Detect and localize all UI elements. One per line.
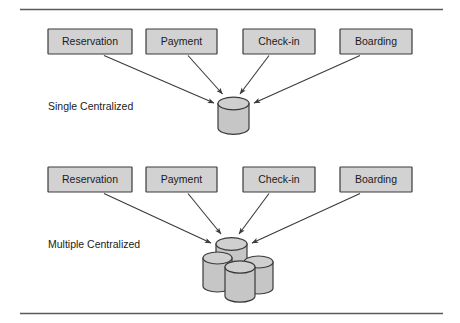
process-box-payment-top[interactable]: Payment xyxy=(146,29,217,54)
flow-arrow-boarding-to-db xyxy=(252,194,360,244)
flow-arrow-check-in-to-db xyxy=(239,194,269,235)
process-box-check-in-top[interactable]: Check-in xyxy=(243,29,315,54)
flow-arrow-check-in-to-db xyxy=(240,56,269,95)
architecture-diagram: Reservation Payment Check-in Boarding Si… xyxy=(0,0,460,323)
cylinder-front-center xyxy=(225,261,255,302)
database-cylinder-single[interactable] xyxy=(218,97,249,134)
cylinder-top xyxy=(218,97,249,110)
process-box-label: Boarding xyxy=(355,35,397,47)
flow-arrow-boarding-to-db xyxy=(254,56,360,104)
process-box-label: Check-in xyxy=(258,35,300,47)
process-box-payment-bottom[interactable]: Payment xyxy=(146,167,217,192)
database-cylinder-cluster[interactable] xyxy=(203,238,273,302)
row-label-multiple-centralized: Multiple Centralized xyxy=(48,238,140,250)
flow-arrow-payment-to-db xyxy=(188,194,221,235)
process-box-boarding-top[interactable]: Boarding xyxy=(340,29,412,54)
row-single-centralized: Reservation Payment Check-in Boarding Si… xyxy=(48,29,412,134)
row-label-single-centralized: Single Centralized xyxy=(48,100,133,112)
cylinder-top xyxy=(216,238,247,251)
process-box-label: Check-in xyxy=(258,173,300,185)
process-box-label: Reservation xyxy=(62,35,118,47)
flow-arrow-payment-to-db xyxy=(188,56,223,95)
process-box-label: Payment xyxy=(161,173,203,185)
process-box-label: Reservation xyxy=(62,173,118,185)
cylinder-top xyxy=(225,261,255,273)
flow-arrow-reservation-to-db xyxy=(104,194,211,244)
process-box-label: Payment xyxy=(161,35,203,47)
process-box-boarding-bottom[interactable]: Boarding xyxy=(340,167,412,192)
process-box-reservation-top[interactable]: Reservation xyxy=(48,29,132,54)
flow-arrow-reservation-to-db xyxy=(104,56,214,104)
process-box-reservation-bottom[interactable]: Reservation xyxy=(48,167,132,192)
process-box-check-in-bottom[interactable]: Check-in xyxy=(243,167,315,192)
process-box-label: Boarding xyxy=(355,173,397,185)
cylinder-top xyxy=(203,252,232,264)
row-multiple-centralized: Reservation Payment Check-in Boarding Mu… xyxy=(48,167,412,302)
diagram-canvas: Reservation Payment Check-in Boarding Si… xyxy=(0,0,460,323)
